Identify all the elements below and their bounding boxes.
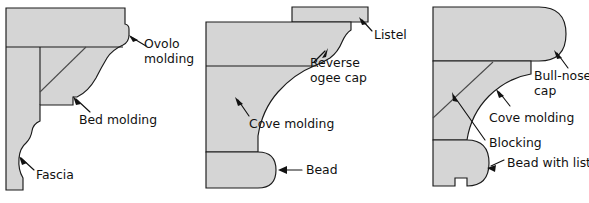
bead-leader-arrowhead: [278, 166, 287, 174]
label-cove-molding: Cove molding: [249, 116, 334, 131]
label-bead: Bead: [306, 162, 338, 177]
label-blocking: Blocking: [489, 135, 542, 150]
ogee-profile-drawing: Listel Reverse ogee cap Cove molding Bea…: [196, 0, 412, 203]
listel-shape: [292, 7, 368, 22]
label-bullnose-line1: Bull-nose: [534, 68, 589, 83]
bead-with-listel-shape: [433, 140, 489, 186]
panel-ovolo-assembly: Ovolo molding Bed molding Fascia: [0, 0, 200, 203]
label-reverse-ogee-line2: ogee cap: [310, 70, 367, 85]
label-fascia: Fascia: [36, 167, 74, 182]
fascia-leader-arrowhead: [19, 156, 27, 165]
ogee-body-shape: [206, 22, 351, 152]
bullnose-profile-drawing: Bull-nose cap Cove molding Blocking Bead…: [411, 0, 589, 203]
bullnose-cap-shape: [433, 7, 566, 61]
label-bed-molding: Bed molding: [79, 112, 157, 127]
label-cove-molding: Cove molding: [489, 110, 574, 125]
label-bead-with-listel: Bead with listel: [507, 155, 589, 170]
label-ovolo-line2: molding: [144, 51, 194, 66]
label-listel: Listel: [374, 27, 407, 42]
panel-ogee-assembly: Listel Reverse ogee cap Cove molding Bea…: [196, 0, 412, 203]
bead-shape: [206, 152, 276, 188]
label-ovolo-line1: Ovolo: [144, 36, 180, 51]
label-reverse-ogee-line1: Reverse: [310, 55, 360, 70]
ovolo-profile-drawing: Ovolo molding Bed molding Fascia: [0, 0, 200, 203]
panel-bullnose-assembly: Bull-nose cap Cove molding Blocking Bead…: [411, 0, 589, 203]
bed-leader-line: [76, 99, 90, 112]
bead-listel-leader-line: [491, 160, 504, 166]
label-bullnose-line2: cap: [534, 83, 556, 98]
molding-profiles-figure: Ovolo molding Bed molding Fascia: [0, 0, 589, 203]
